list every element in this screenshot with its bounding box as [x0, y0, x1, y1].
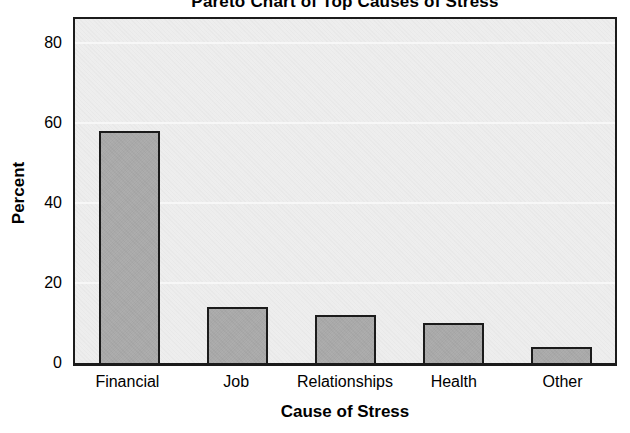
bar-cell-relationships	[291, 19, 399, 363]
bar-relationships	[315, 315, 376, 363]
y-tick-label: 0	[0, 353, 62, 373]
bar-health	[423, 323, 484, 363]
x-tick-label-relationships: Relationships	[291, 370, 400, 396]
bar-cell-other	[507, 19, 615, 363]
bar-cell-financial	[75, 19, 183, 363]
y-tick-label: 20	[0, 273, 62, 293]
x-axis-title: Cause of Stress	[73, 402, 617, 422]
bar-job	[207, 307, 268, 363]
bars-layer	[75, 19, 615, 363]
x-axis-tick-labels: FinancialJobRelationshipsHealthOther	[73, 370, 617, 396]
y-tick-label: 80	[0, 33, 62, 53]
bar-other	[531, 347, 592, 363]
pareto-chart-figure: Pareto Chart of Top Causes of Stress Per…	[0, 0, 630, 433]
bar-cell-job	[183, 19, 291, 363]
x-tick-label-other: Other	[508, 370, 617, 396]
y-axis-tick-labels: 020406080	[0, 0, 62, 433]
y-tick-label: 40	[0, 193, 62, 213]
y-tick-label: 60	[0, 113, 62, 133]
x-tick-label-job: Job	[182, 370, 291, 396]
x-tick-label-financial: Financial	[73, 370, 182, 396]
bar-cell-health	[399, 19, 507, 363]
chart-title: Pareto Chart of Top Causes of Stress	[73, 0, 617, 10]
plot-area	[73, 17, 617, 366]
bar-financial	[99, 131, 160, 363]
x-tick-label-health: Health	[399, 370, 508, 396]
